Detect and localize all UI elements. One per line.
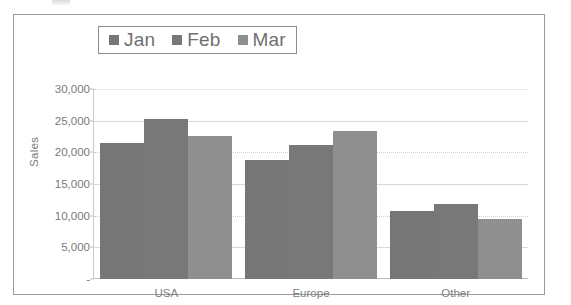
- bar[interactable]: [434, 204, 478, 279]
- y-axis-tick-label: 10,000: [55, 210, 90, 222]
- y-axis-tick-label: 15,000: [55, 178, 90, 190]
- bar[interactable]: [289, 145, 333, 279]
- x-axis-tick-label: Europe: [292, 287, 329, 299]
- bar[interactable]: [188, 136, 232, 279]
- plot-area: [94, 89, 528, 279]
- y-axis-title: Sales: [28, 137, 40, 167]
- legend-swatch-feb: [172, 35, 182, 45]
- legend-label-jan: Jan: [124, 30, 155, 49]
- bar[interactable]: [245, 160, 289, 279]
- legend-label-mar: Mar: [253, 30, 286, 49]
- legend-swatch-mar: [238, 35, 248, 45]
- scan-artifact: [52, 0, 70, 5]
- x-axis-tick-label: USA: [155, 287, 179, 299]
- bar[interactable]: [478, 219, 522, 279]
- legend-label-feb: Feb: [187, 30, 220, 49]
- chart-container: Jan Feb Mar Sales -5,00010,00015,00020,0…: [13, 14, 545, 295]
- y-axis-tick-label: 25,000: [55, 115, 90, 127]
- legend-item-feb[interactable]: Feb: [172, 30, 220, 49]
- legend-item-mar[interactable]: Mar: [238, 30, 286, 49]
- x-axis-tick-label: Other: [441, 287, 470, 299]
- legend-item-jan[interactable]: Jan: [109, 30, 155, 49]
- bar[interactable]: [100, 143, 144, 279]
- bar-group: [94, 89, 239, 279]
- y-axis-tick-labels: -5,00010,00015,00020,00025,00030,000: [40, 89, 90, 279]
- bar-group: [239, 89, 384, 279]
- bar-group: [383, 89, 528, 279]
- bar[interactable]: [333, 131, 377, 279]
- x-axis-tick-labels: USAEuropeOther: [94, 287, 528, 305]
- bar[interactable]: [144, 119, 188, 279]
- y-axis-tick-label: 5,000: [61, 241, 90, 253]
- y-axis-tick-label: 20,000: [55, 146, 90, 158]
- chart-legend: Jan Feb Mar: [98, 26, 297, 54]
- bar[interactable]: [390, 211, 434, 279]
- y-axis-tick-label: 30,000: [55, 83, 90, 95]
- legend-swatch-jan: [109, 35, 119, 45]
